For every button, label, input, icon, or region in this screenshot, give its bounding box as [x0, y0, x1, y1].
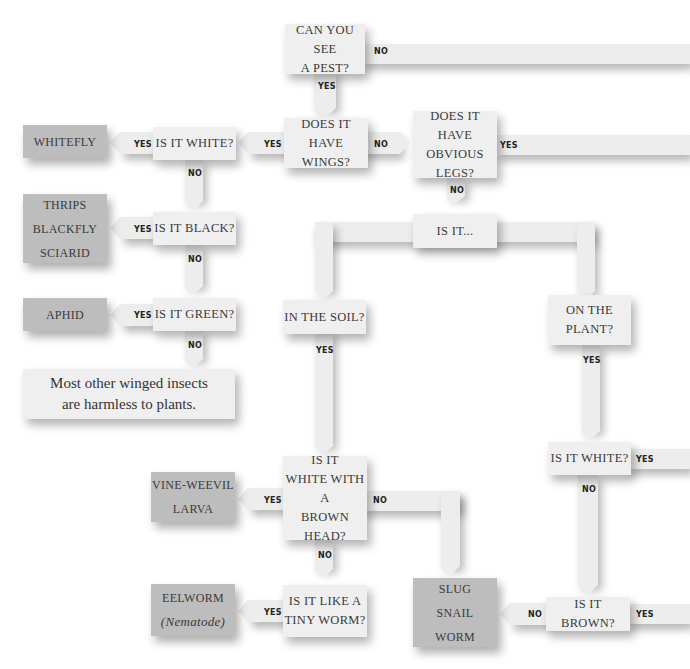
- answer-line: SLUG: [439, 577, 472, 601]
- answer-line: EELWORM: [162, 586, 224, 610]
- label-no: NO: [450, 186, 464, 195]
- question-line: BROWN HEAD?: [283, 508, 367, 546]
- answer-whitefly: WHITEFLY: [23, 125, 107, 158]
- question-line: TINY WORM?: [284, 611, 365, 630]
- arrow-left-icon: [110, 132, 120, 154]
- answer-thrips-group: THRIPS BLACKFLY SCIARID: [23, 194, 107, 263]
- question-in-soil: IN THE SOIL?: [283, 300, 366, 334]
- arrow-down-icon: [184, 285, 204, 295]
- note-line: Most other winged insects: [50, 373, 208, 394]
- question-line: HAVE WINGS?: [284, 134, 368, 172]
- question-line: OBVIOUS LEGS?: [413, 145, 497, 183]
- label-yes: YES: [134, 140, 152, 149]
- question-see-pest: CAN YOU SEE A PEST?: [285, 24, 365, 74]
- question-legs: DOES IT HAVE OBVIOUS LEGS?: [413, 111, 497, 178]
- answer-slug-group: SLUG SNAIL WORM: [413, 578, 497, 647]
- question-line: ON THE: [566, 301, 613, 320]
- arrow-left-icon: [238, 600, 248, 622]
- answer-line: WORM: [435, 625, 475, 649]
- answer-line: (Nematode): [161, 610, 225, 634]
- question-text: IS IT...: [437, 222, 474, 241]
- arrow-down-icon: [314, 290, 334, 300]
- arrow-left-icon: [110, 304, 120, 326]
- label-no: NO: [188, 169, 202, 178]
- question-line: IS IT LIKE A: [289, 592, 361, 611]
- label-yes: YES: [264, 608, 282, 617]
- arrow-down-icon: [578, 585, 598, 595]
- connector-yes-legs: [495, 135, 690, 155]
- question-line: CAN YOU SEE: [285, 21, 365, 59]
- arrow-left-icon: [238, 488, 248, 510]
- question-is-white-winged: IS IT WHITE?: [153, 127, 236, 160]
- connector-is-it-left-leg: [315, 222, 333, 290]
- label-no: NO: [318, 551, 332, 560]
- answer-text: APHID: [46, 303, 84, 327]
- connector-no-black: [185, 245, 203, 285]
- arrow-down-icon: [314, 568, 334, 578]
- label-yes: YES: [316, 346, 334, 355]
- answer-text: WHITEFLY: [34, 130, 97, 154]
- question-line: WHITE WITH A: [283, 470, 367, 508]
- arrow-down-icon: [445, 196, 465, 204]
- question-is-white-plant: IS IT WHITE?: [548, 442, 631, 475]
- label-yes: YES: [264, 496, 282, 505]
- label-yes: YES: [318, 82, 336, 91]
- arrow-left-icon: [500, 603, 510, 625]
- label-yes: YES: [583, 356, 601, 365]
- label-yes: YES: [134, 311, 152, 320]
- arrow-right-icon: [400, 132, 410, 154]
- question-is-it: IS IT...: [413, 214, 497, 248]
- question-text: IS IT GREEN?: [155, 305, 235, 324]
- question-text: IS IT BROWN?: [546, 595, 630, 633]
- label-no: NO: [188, 255, 202, 264]
- question-tiny-worm: IS IT LIKE A TINY WORM?: [283, 585, 367, 637]
- answer-line: SCIARID: [40, 241, 90, 265]
- connector-no-brown-head-vertical: [441, 491, 460, 566]
- answer-line: LARVA: [173, 497, 213, 521]
- label-yes: YES: [636, 455, 654, 464]
- question-text: IS IT WHITE?: [550, 449, 628, 468]
- connector-yes-plant-white: [625, 449, 690, 469]
- answer-vine-weevil: VINE-WEEVIL LARVA: [151, 472, 235, 522]
- label-yes: YES: [500, 141, 518, 150]
- label-no: NO: [528, 610, 542, 619]
- answer-line: THRIPS: [43, 193, 86, 217]
- label-no: NO: [373, 496, 387, 505]
- question-line: DOES IT HAVE: [413, 107, 497, 145]
- answer-line: VINE-WEEVIL: [152, 473, 234, 497]
- arrow-left-icon: [110, 217, 120, 239]
- answer-aphid: APHID: [23, 298, 107, 331]
- label-yes: YES: [134, 225, 152, 234]
- arrow-down-icon: [184, 200, 204, 210]
- question-line: A PEST?: [301, 59, 349, 78]
- answer-eelworm: EELWORM (Nematode): [151, 584, 235, 636]
- question-text: IS IT WHITE?: [155, 134, 233, 153]
- arrow-down-icon: [581, 430, 601, 440]
- question-line: DOES IT: [301, 115, 351, 134]
- question-is-black: IS IT BLACK?: [153, 212, 236, 245]
- note-line: are harmless to plants.: [62, 394, 196, 415]
- arrow-left-icon: [238, 132, 248, 154]
- question-wings: DOES IT HAVE WINGS?: [284, 118, 368, 168]
- question-is-brown: IS IT BROWN?: [546, 597, 630, 631]
- answer-line: SNAIL: [437, 601, 474, 625]
- connector-no-white: [185, 160, 203, 200]
- label-no: NO: [374, 140, 388, 149]
- question-text: IN THE SOIL?: [284, 308, 364, 327]
- question-line: IS IT: [311, 451, 339, 470]
- question-on-plant: ON THE PLANT?: [548, 295, 631, 345]
- note-harmless: Most other winged insects are harmless t…: [23, 369, 235, 419]
- label-no: NO: [374, 47, 388, 56]
- arrow-down-icon: [440, 566, 460, 576]
- label-no: NO: [582, 485, 596, 494]
- connector-no-see-pest: [360, 44, 690, 64]
- label-yes: YES: [636, 610, 654, 619]
- question-text: IS IT BLACK?: [154, 219, 234, 238]
- answer-line: BLACKFLY: [33, 217, 98, 241]
- question-is-green: IS IT GREEN?: [153, 298, 236, 331]
- label-no: NO: [188, 341, 202, 350]
- question-white-brown-head: IS IT WHITE WITH A BROWN HEAD?: [283, 456, 367, 540]
- connector-yes-brown: [625, 604, 690, 624]
- question-line: PLANT?: [566, 320, 614, 339]
- arrow-down-icon: [184, 358, 204, 368]
